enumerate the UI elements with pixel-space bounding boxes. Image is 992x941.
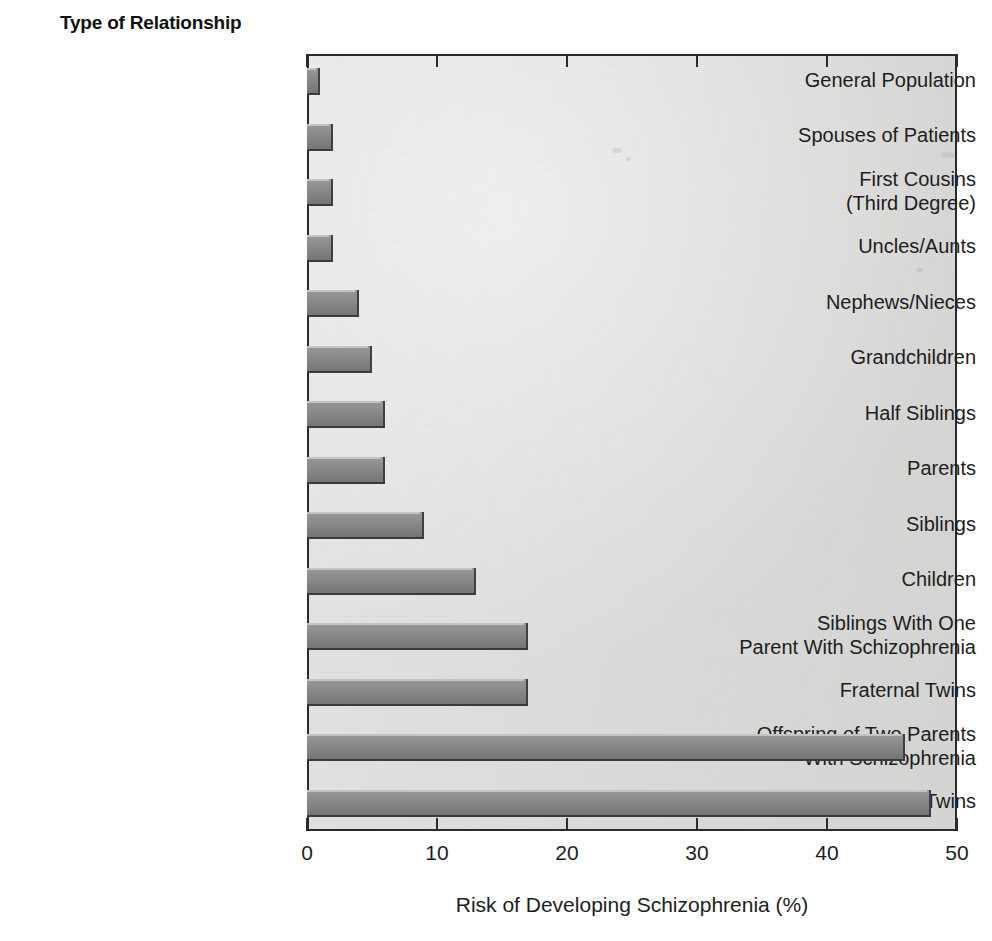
category-label: Uncles/Aunts — [700, 234, 992, 258]
category-label: Parents — [700, 456, 992, 480]
bar — [307, 290, 359, 317]
x-axis-title: Risk of Developing Schizophrenia (%) — [307, 893, 957, 917]
x-tick-label: 20 — [555, 841, 578, 865]
x-tick-bottom — [306, 818, 308, 831]
x-tick-top — [696, 54, 698, 67]
page-title: Type of Relationship — [60, 12, 241, 34]
bar — [307, 734, 905, 761]
x-tick-top — [826, 54, 828, 67]
bar — [307, 346, 372, 373]
x-tick-bottom — [436, 818, 438, 831]
category-label: General Population — [700, 68, 992, 92]
bar — [307, 235, 333, 262]
category-label: Spouses of Patients — [700, 123, 992, 147]
category-label: Fraternal Twins — [700, 678, 992, 702]
bar — [307, 457, 385, 484]
x-tick-label: 40 — [815, 841, 838, 865]
bar — [307, 679, 528, 706]
category-label: First Cousins (Third Degree) — [700, 167, 992, 215]
x-tick-top — [306, 54, 308, 67]
category-label: Siblings — [700, 512, 992, 536]
bar — [307, 179, 333, 206]
bar — [307, 124, 333, 151]
x-tick-label: 30 — [685, 841, 708, 865]
category-label: Children — [700, 567, 992, 591]
x-tick-label: 10 — [425, 841, 448, 865]
x-tick-bottom — [566, 818, 568, 831]
x-tick-label: 0 — [301, 841, 313, 865]
bar — [307, 512, 424, 539]
chart-figure: Type of Relationship General PopulationS… — [0, 0, 992, 941]
x-tick-bottom — [696, 818, 698, 831]
bar — [307, 790, 931, 817]
x-tick-top — [566, 54, 568, 67]
x-tick-bottom — [956, 818, 958, 831]
x-tick-top — [436, 54, 438, 67]
bar — [307, 68, 320, 95]
bar — [307, 401, 385, 428]
category-label: Siblings With One Parent With Schizophre… — [700, 611, 992, 659]
category-label: Grandchildren — [700, 345, 992, 369]
category-label: Nephews/Nieces — [700, 290, 992, 314]
x-tick-label: 50 — [945, 841, 968, 865]
bar — [307, 568, 476, 595]
bar — [307, 623, 528, 650]
x-tick-bottom — [826, 818, 828, 831]
category-label: Half Siblings — [700, 401, 992, 425]
x-tick-top — [956, 54, 958, 67]
